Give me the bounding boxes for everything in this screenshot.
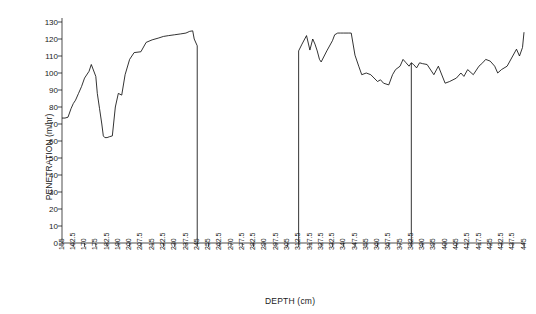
y-tick-label: 30 — [49, 188, 58, 197]
y-tick-label: 80 — [49, 103, 58, 112]
data-series-line — [62, 31, 524, 243]
y-axis-tick-labels: 0102030405060708090100110120130 — [22, 0, 58, 314]
y-tick-label: 60 — [49, 137, 58, 146]
y-tick-label: 100 — [45, 69, 58, 78]
y-tick-label: 50 — [49, 154, 58, 163]
series-polyline — [62, 31, 197, 138]
plot-area — [0, 0, 536, 314]
y-tick-label: 90 — [49, 86, 58, 95]
x-axis-label: DEPTH (cm) — [265, 296, 315, 306]
y-tick-label: 70 — [49, 120, 58, 129]
penetration-depth-chart: PENETRATION (m/hr) 010203040506070809010… — [0, 0, 536, 314]
y-tick-label: 110 — [45, 52, 58, 61]
y-tick-label: 0 — [54, 239, 58, 248]
y-tick-label: 20 — [49, 205, 58, 214]
axes — [58, 18, 524, 247]
y-tick-label: 130 — [45, 18, 58, 27]
y-tick-label: 10 — [49, 222, 58, 231]
y-tick-label: 40 — [49, 171, 58, 180]
y-tick-label: 120 — [45, 35, 58, 44]
